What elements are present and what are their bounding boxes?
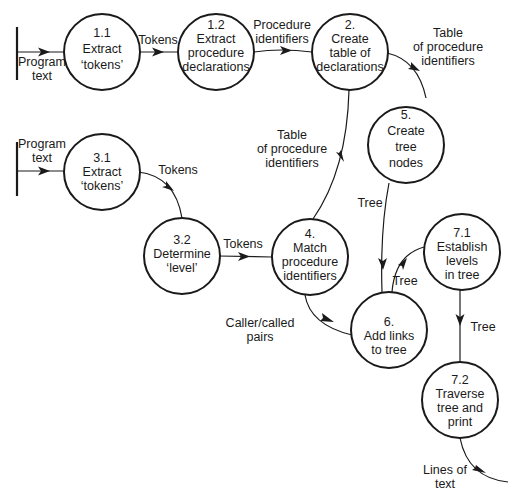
svg-text:Match: Match — [293, 241, 327, 255]
svg-text:5.: 5. — [401, 108, 411, 122]
svg-text:Extract: Extract — [83, 165, 122, 179]
svg-text:1.1: 1.1 — [93, 26, 110, 40]
label-procedure-identifiers: Procedure — [253, 18, 311, 32]
process-1-1: 1.1 Extract ‘tokens’ — [64, 14, 140, 90]
arrow-icon — [320, 313, 334, 322]
label-tokens-3: Tokens — [223, 237, 263, 251]
arrow-icon — [398, 258, 407, 270]
svg-text:4.: 4. — [305, 227, 315, 241]
svg-text:6.: 6. — [384, 315, 394, 329]
process-4: 4. Match procedure identifiers — [272, 219, 348, 295]
flow-table-to-5 — [387, 53, 426, 98]
svg-text:3.1: 3.1 — [93, 151, 110, 165]
svg-text:7.1: 7.1 — [453, 226, 470, 240]
svg-text:1.2: 1.2 — [207, 18, 224, 32]
svg-text:‘tokens’: ‘tokens’ — [81, 58, 123, 72]
process-2: 2. Create table of declarations — [312, 14, 388, 90]
svg-text:declarations: declarations — [182, 60, 249, 74]
svg-text:2.: 2. — [345, 18, 355, 32]
flow-tokens-2 — [138, 172, 182, 218]
svg-text:Determine: Determine — [153, 247, 211, 261]
svg-text:in tree: in tree — [445, 268, 480, 282]
flow-tokens-1 — [140, 48, 178, 57]
label-tree-1: Tree — [357, 196, 382, 210]
process-5: 5. Create tree nodes — [368, 107, 444, 183]
label-program-text-1: Program — [18, 55, 66, 69]
label-program-text-2: Program — [18, 137, 66, 151]
svg-text:table of: table of — [329, 46, 371, 60]
process-7-2: 7.2 Traverse tree and print — [422, 362, 498, 438]
label-caller-called: Caller/called — [226, 316, 295, 330]
svg-text:tree and: tree and — [437, 401, 483, 415]
svg-text:Extract: Extract — [83, 42, 122, 56]
svg-text:identifiers: identifiers — [421, 54, 475, 68]
process-1-2: 1.2 Extract procedure declarations — [178, 14, 254, 90]
svg-text:Create: Create — [331, 32, 369, 46]
arrow-icon — [408, 62, 420, 71]
svg-text:Create: Create — [387, 124, 425, 138]
label-table-2: Table — [277, 128, 307, 142]
flow-caller-called-pairs — [305, 295, 352, 335]
flow-procedure-identifiers — [254, 46, 312, 55]
svg-text:of procedure: of procedure — [257, 142, 327, 156]
svg-text:3.2: 3.2 — [173, 233, 190, 247]
svg-text:Traverse: Traverse — [436, 387, 485, 401]
svg-text:to tree: to tree — [371, 343, 406, 357]
svg-text:7.2: 7.2 — [451, 373, 468, 387]
label-tree-3: Tree — [470, 320, 495, 334]
label-lines-of-text: Lines of — [423, 463, 467, 477]
svg-text:identifiers: identifiers — [283, 269, 337, 283]
flow-tokens-3 — [218, 252, 272, 261]
svg-text:of procedure: of procedure — [413, 40, 483, 54]
svg-text:procedure: procedure — [282, 255, 338, 269]
svg-text:procedure: procedure — [188, 46, 244, 60]
process-3-2: 3.2 Determine ‘level’ — [144, 218, 220, 294]
svg-text:levels: levels — [446, 254, 478, 268]
svg-text:declarations: declarations — [316, 60, 383, 74]
label-tokens-1: Tokens — [138, 33, 178, 47]
arrow-icon — [378, 258, 387, 270]
data-flow-diagram: 1.1 Extract ‘tokens’ 1.2 Extract procedu… — [0, 0, 520, 498]
svg-text:identifiers: identifiers — [255, 32, 309, 46]
label-tokens-2: Tokens — [158, 163, 198, 177]
svg-text:‘tokens’: ‘tokens’ — [81, 179, 123, 193]
svg-text:pairs: pairs — [246, 330, 273, 344]
svg-text:‘level’: ‘level’ — [166, 261, 197, 275]
flow-program-text-2 — [17, 167, 64, 176]
svg-text:text: text — [435, 477, 456, 491]
svg-text:nodes: nodes — [389, 156, 423, 170]
flow-tree-71-to-72 — [456, 290, 465, 362]
process-7-1: 7.1 Establish levels in tree — [424, 214, 500, 290]
svg-text:Add links: Add links — [364, 329, 415, 343]
label-table-1: Table — [433, 26, 463, 40]
svg-text:Establish: Establish — [437, 240, 488, 254]
svg-text:print: print — [448, 415, 473, 429]
svg-text:Extract: Extract — [197, 32, 236, 46]
svg-text:identifiers: identifiers — [265, 156, 319, 170]
flow-lines-of-text — [460, 438, 508, 482]
process-3-1: 3.1 Extract ‘tokens’ — [64, 134, 140, 210]
label-tree-2: Tree — [392, 274, 417, 288]
svg-text:tree: tree — [395, 140, 417, 154]
svg-text:text: text — [32, 151, 53, 165]
process-6: 6. Add links to tree — [351, 292, 427, 368]
svg-text:text: text — [32, 69, 53, 83]
